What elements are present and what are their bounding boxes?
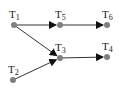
node-label-T2: T2 xyxy=(8,64,19,77)
node-label-T5: T5 xyxy=(55,9,66,22)
node-label-T4: T4 xyxy=(102,41,113,54)
node-label-T3: T3 xyxy=(55,42,66,55)
node-T6 xyxy=(104,22,110,28)
node-T5 xyxy=(57,22,63,28)
node-T1 xyxy=(11,22,17,28)
node-label-T6: T6 xyxy=(102,9,113,22)
node-T3 xyxy=(57,55,63,61)
node-T2 xyxy=(10,77,16,83)
edge-T2-T3 xyxy=(15,60,57,79)
node-label-T1: T1 xyxy=(9,9,20,22)
edge-T1-T3 xyxy=(16,26,57,56)
edge-T3-T4 xyxy=(62,57,103,58)
node-T4 xyxy=(104,54,110,60)
